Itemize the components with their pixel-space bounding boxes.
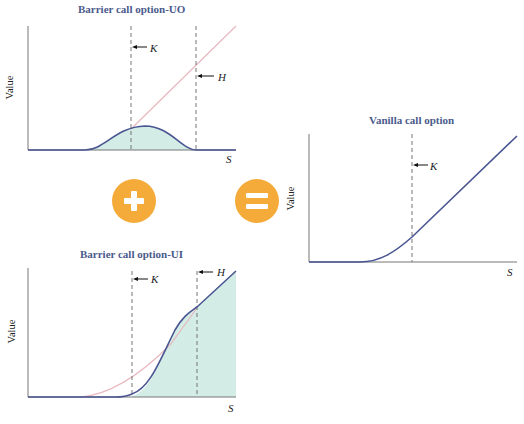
vanilla-strike-arrow-icon xyxy=(413,163,428,167)
vanilla-value-curve xyxy=(309,136,517,262)
vanilla-chart xyxy=(0,0,524,424)
